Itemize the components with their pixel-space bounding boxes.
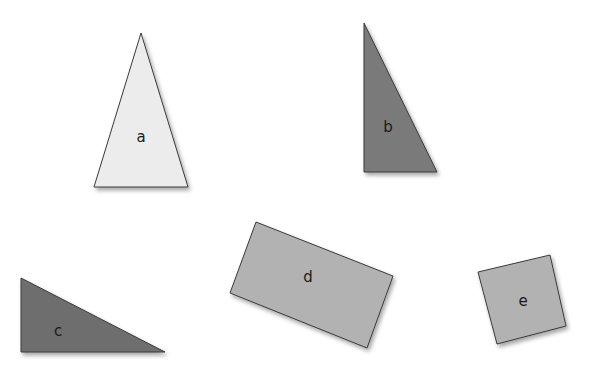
- shape-e: e: [478, 255, 566, 344]
- shape-a: a: [94, 33, 188, 187]
- shape-e-label: e: [518, 292, 527, 310]
- shapes-diagram: abcde: [0, 0, 592, 372]
- shape-d: d: [230, 222, 393, 348]
- shape-b: b: [364, 23, 437, 172]
- shape-a-label: a: [136, 128, 145, 146]
- shape-b-right-triangle: [364, 23, 437, 172]
- shapes-layer: abcde: [21, 23, 566, 352]
- shape-a-isosceles-triangle: [94, 33, 188, 187]
- shape-d-label: d: [303, 268, 313, 286]
- shape-c-right-triangle: [21, 278, 165, 352]
- shape-c: c: [21, 278, 165, 352]
- shape-c-label: c: [54, 322, 62, 340]
- shape-b-label: b: [383, 118, 393, 136]
